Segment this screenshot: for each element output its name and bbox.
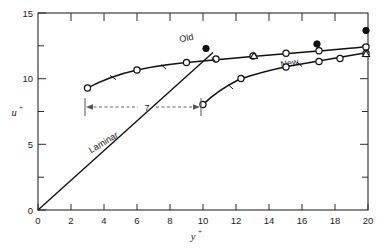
x-tick-label-20: 20: [363, 215, 374, 226]
y-tick-label-15: 15: [22, 8, 33, 19]
y-tick-labels: 0 5 10 15: [22, 8, 33, 216]
data-point-marker-filled: [314, 41, 320, 47]
data-point-marker: [283, 50, 289, 56]
data-point-marker: [84, 85, 90, 91]
x-tick-label-0: 0: [35, 215, 40, 226]
x-tick-label-4: 4: [101, 215, 106, 226]
filled-circle-markers: [203, 27, 369, 51]
x-tick-label-10: 10: [198, 215, 209, 226]
data-point-marker: [363, 44, 369, 50]
figure-container: 0 5 10 15 0 2 4 6 8 10 12 14 16 18 20 u …: [0, 0, 382, 251]
y-tick-label-10: 10: [22, 73, 33, 84]
x-tick-label-6: 6: [134, 215, 139, 226]
y-axis-title: u: [11, 107, 16, 118]
x-tick-labels: 0 2 4 6 8 10 12 14 16 18 20: [35, 215, 373, 226]
data-point-marker-cross: [228, 85, 233, 90]
y-axis-title-sup: +: [19, 104, 23, 112]
x-tick-label-8: 8: [167, 215, 172, 226]
x-tick-label-14: 14: [264, 215, 275, 226]
data-point-marker: [238, 75, 244, 81]
data-point-marker: [183, 59, 189, 65]
y-tick-label-5: 5: [28, 139, 33, 150]
x-tick-label-18: 18: [330, 215, 341, 226]
old-curve-label: Old: [179, 32, 195, 44]
data-point-marker: [283, 64, 289, 70]
arrow-head-right: [193, 104, 200, 110]
x-tick-label-2: 2: [68, 215, 73, 226]
data-point-marker: [316, 48, 322, 54]
shift-annotation-label: 7: [144, 103, 149, 113]
data-point-marker: [337, 55, 343, 61]
x-axis-title-sup: +: [198, 228, 202, 236]
y-tick-label-0: 0: [28, 205, 33, 216]
cross-markers: [110, 58, 302, 90]
laminar-line-series: Laminar: [38, 53, 213, 211]
x-tick-label-12: 12: [231, 215, 242, 226]
data-point-marker-filled: [203, 45, 209, 51]
x-tick-label-16: 16: [297, 215, 308, 226]
data-point-marker-filled: [363, 27, 369, 33]
velocity-profile-chart: 0 5 10 15 0 2 4 6 8 10 12 14 16 18 20 u …: [0, 0, 382, 251]
data-point-marker: [316, 58, 322, 64]
data-point-marker: [134, 67, 140, 73]
x-axis-title: y: [190, 231, 196, 242]
arrow-head-left: [86, 104, 93, 110]
shift-annotation: 7: [85, 98, 201, 116]
